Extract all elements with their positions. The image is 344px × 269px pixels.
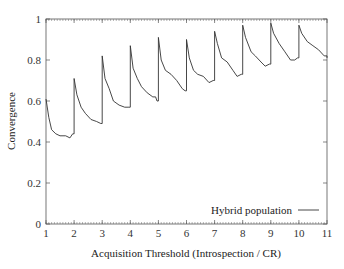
x-tick-label: 2 <box>71 227 77 239</box>
y-tick-label: 0.2 <box>27 177 41 189</box>
y-tick-label: 0.8 <box>27 54 41 66</box>
hybrid-population-line <box>46 23 327 138</box>
x-tick-label: 11 <box>322 227 333 239</box>
y-tick-label: 0 <box>36 218 42 230</box>
x-axis-label: Acquisition Threshold (Introspection / C… <box>91 247 281 260</box>
x-tick-label: 8 <box>240 227 246 239</box>
legend: Hybrid population <box>211 204 319 216</box>
x-tick-label: 3 <box>99 227 105 239</box>
x-tick-label: 1 <box>43 227 49 239</box>
x-tick-label: 7 <box>212 227 218 239</box>
y-tick-label: 0.6 <box>27 95 41 107</box>
x-tick-label: 6 <box>184 227 190 239</box>
y-axis-label: Convergence <box>5 92 17 150</box>
legend-label: Hybrid population <box>211 204 292 216</box>
y-tick-label: 0.4 <box>27 136 41 148</box>
y-tick-label: 1 <box>36 13 42 25</box>
convergence-chart: 123456789101100.20.40.60.81 Acquisition … <box>0 0 344 269</box>
x-tick-label: 9 <box>268 227 274 239</box>
x-tick-label: 5 <box>156 227 162 239</box>
x-tick-label: 4 <box>128 227 134 239</box>
x-tick-label: 10 <box>293 227 305 239</box>
